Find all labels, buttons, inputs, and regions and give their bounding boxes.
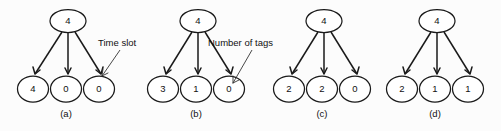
panel-b-leaf-0: 3 (148, 76, 179, 102)
panel-a-leaf-1: 0 (51, 76, 82, 102)
panel-c-edges (290, 32, 359, 74)
annotation-time-slot-label: Time slot (98, 37, 137, 48)
edge-root-to-leaf-0 (292, 32, 318, 74)
leaf-label: 0 (352, 83, 357, 94)
annotation-time-slot-leader (102, 50, 120, 76)
leaf-label: 1 (432, 83, 437, 94)
panel-a-root-node: 4 (50, 10, 86, 33)
leaf-label: 0 (63, 83, 68, 94)
leaf-label: 0 (96, 83, 101, 94)
panel-b-leaf-2: 0 (214, 76, 245, 102)
annotation-number-of-tags-leader (233, 50, 252, 83)
panel-c-leaf-2: 0 (340, 76, 371, 102)
leaf-label: 3 (160, 83, 165, 94)
panel-b: 4 3 1 0 (b) (148, 10, 245, 120)
leaf-label: 1 (465, 83, 470, 94)
panel-d-leaf-1: 1 (420, 76, 451, 102)
root-label: 4 (195, 15, 200, 26)
panel-a: 4 4 0 0 (a) (18, 10, 115, 120)
leaf-label: 1 (193, 83, 198, 94)
leaf-label: 2 (319, 83, 324, 94)
root-label: 4 (65, 15, 70, 26)
panel-d-leaf-0: 2 (387, 76, 418, 102)
root-label: 4 (434, 15, 439, 26)
tag-distribution-figure: 4 4 0 0 (a) Time slot (0, 0, 501, 131)
edge-root-to-leaf-2 (444, 32, 470, 74)
panel-d: 4 2 1 1 (d) (387, 10, 484, 120)
panel-a-caption: (a) (60, 108, 72, 119)
panel-a-leaf-2: 0 (84, 76, 115, 102)
panel-c: 4 2 2 0 (c) (274, 10, 371, 120)
leaf-label: 2 (286, 83, 291, 94)
annotation-time-slot: Time slot (98, 37, 137, 76)
edge-root-to-leaf-0 (166, 32, 192, 74)
edge-root-to-leaf-2 (331, 32, 357, 74)
panel-c-caption: (c) (316, 108, 327, 119)
panel-c-leaf-1: 2 (307, 76, 338, 102)
panel-d-edges (403, 32, 472, 74)
panel-a-edges (33, 32, 103, 74)
panel-c-leaf-0: 2 (274, 76, 305, 102)
panel-b-leaf-1: 1 (181, 76, 212, 102)
leaf-label: 4 (30, 83, 35, 94)
panel-b-caption: (b) (190, 108, 202, 119)
edge-root-to-leaf-0 (35, 32, 62, 74)
annotation-number-of-tags-label: Number of tags (208, 37, 273, 48)
panel-b-root-node: 4 (180, 10, 216, 33)
panel-d-leaf-2: 1 (453, 76, 484, 102)
panel-a-leaf-0: 4 (18, 76, 49, 102)
panel-d-caption: (d) (429, 108, 441, 119)
leaf-label: 0 (226, 83, 231, 94)
panel-c-root-node: 4 (306, 10, 342, 33)
leaf-label: 2 (399, 83, 404, 94)
edge-root-to-leaf-0 (405, 32, 431, 74)
annotation-number-of-tags: Number of tags (208, 37, 273, 83)
figure-canvas: 4 4 0 0 (a) Time slot (0, 0, 501, 131)
panel-d-root-node: 4 (419, 10, 455, 33)
root-label: 4 (321, 15, 326, 26)
